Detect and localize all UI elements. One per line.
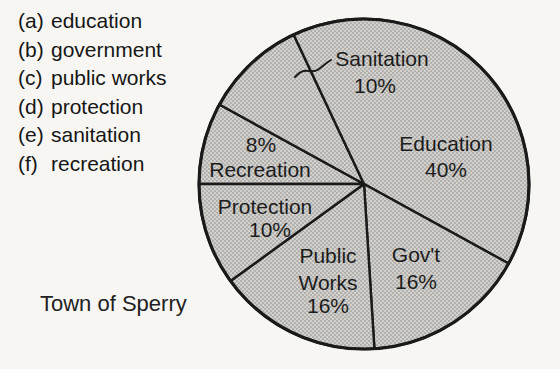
slice-label-public-works-line1: Public (299, 244, 356, 267)
slice-label-sanitation-pct: 10% (354, 74, 396, 97)
scanned-worksheet-page: (a)education (b)government (c)public wor… (0, 0, 560, 369)
slice-label-public-works-pct: 16% (307, 294, 349, 317)
slice-label-govt-pct: 16% (395, 270, 437, 293)
slice-label-education-name: Education (399, 132, 492, 155)
slice-label-govt-name: Gov't (392, 243, 441, 266)
pie-chart: Sanitation 10% Education 40% 8% Recreati… (0, 0, 560, 369)
slice-label-education-pct: 40% (425, 158, 467, 181)
slice-label-public-works-line2: Works (298, 271, 357, 294)
slice-label-recreation-name: Recreation (209, 158, 311, 181)
slice-label-protection-name: Protection (218, 195, 313, 218)
slice-label-recreation-pct: 8% (246, 133, 276, 156)
slice-label-sanitation-name: Sanitation (335, 47, 428, 70)
slice-label-protection-pct: 10% (249, 218, 291, 241)
